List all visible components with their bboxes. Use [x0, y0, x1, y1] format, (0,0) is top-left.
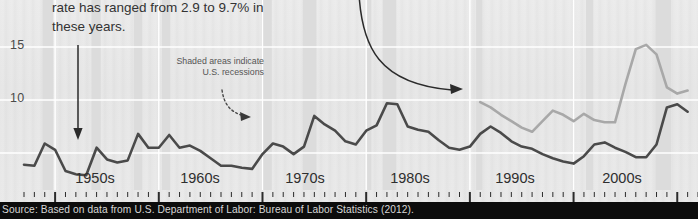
- x-axis-label-1970s: 1970s: [285, 170, 325, 186]
- callout-text-shaded-areas: Shaded areas indicate U.S. recessions: [168, 56, 264, 77]
- recession-band: [586, 0, 593, 190]
- callout-arrow-straight: [73, 45, 82, 140]
- x-axis-label-1960s: 1960s: [180, 170, 220, 186]
- recession-band: [383, 0, 396, 190]
- recession-band: [367, 0, 371, 190]
- x-axis-label-1990s: 1990s: [495, 170, 535, 186]
- x-axis-label-1980s: 1980s: [390, 170, 430, 186]
- callout-arrow-dotted: [222, 90, 251, 121]
- callout-text-rate-range: rate has ranged from 2.9 to 9.7% in thes…: [52, 0, 292, 36]
- axis-ticks-group: [24, 192, 698, 202]
- x-axis-label-1950s: 1950s: [75, 170, 115, 186]
- x-axis-label-2000s: 2000s: [602, 170, 642, 186]
- y-axis-label-15: 15: [10, 38, 24, 52]
- recession-band: [303, 0, 316, 190]
- source-bar: Source: Based on data from U.S. Departme…: [0, 202, 698, 219]
- recession-band: [655, 0, 671, 190]
- recession-band: [476, 0, 482, 190]
- y-axis-label-10: 10: [10, 91, 24, 105]
- unemployment-rate-chart: 15 10 1950s 1960s 1970s 1980s 1990s 2000…: [0, 0, 698, 219]
- source-credit-text: Source: Based on data from U.S. Departme…: [2, 204, 414, 215]
